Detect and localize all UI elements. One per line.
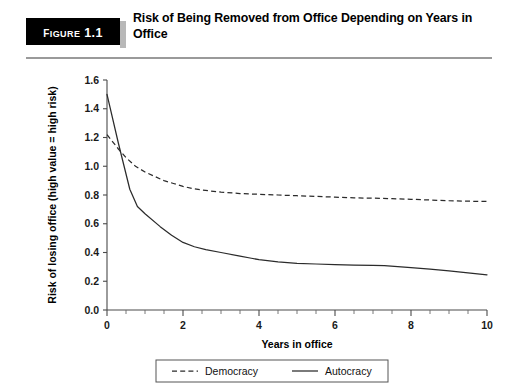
figure-header: Figure 1.1 Risk of Being Removed from Of… — [0, 0, 513, 62]
y-tick-label: 0.2 — [84, 275, 99, 287]
y-tick-label: 0.4 — [84, 246, 99, 258]
y-tick-label: 0.0 — [84, 304, 99, 316]
x-tick-label: 10 — [481, 319, 493, 331]
header-divider — [26, 57, 492, 59]
chart-legend: DemocracyAutocracy — [156, 360, 388, 382]
x-tick-label: 2 — [180, 319, 186, 331]
x-tick-label: 8 — [408, 319, 414, 331]
legend-label-autocracy: Autocracy — [325, 365, 372, 377]
y-axis-ticks: 0.00.20.40.60.81.01.21.41.6 — [84, 74, 107, 316]
y-tick-label: 1.0 — [84, 160, 99, 172]
x-tick-label: 4 — [256, 319, 262, 331]
figure-badge-shadow — [120, 21, 126, 48]
axes-group — [107, 80, 487, 310]
figure-title: Risk of Being Removed from Office Depend… — [133, 10, 485, 42]
line-chart: 0.00.20.40.60.81.01.21.41.6 0246810 Year… — [0, 62, 513, 388]
y-tick-label: 0.6 — [84, 217, 99, 229]
y-tick-label: 1.6 — [84, 74, 99, 86]
figure-number-label: Figure 1.1 — [43, 24, 102, 40]
figure-number-badge: Figure 1.1 — [26, 18, 120, 45]
x-axis-ticks: 0246810 — [104, 310, 493, 331]
series-line-democracy — [107, 135, 487, 202]
y-tick-label: 1.2 — [84, 131, 99, 143]
y-tick-label: 1.4 — [84, 102, 99, 114]
y-axis-title: Risk of losing office (high value = high… — [46, 86, 58, 303]
x-tick-label: 6 — [332, 319, 338, 331]
x-axis-title: Years in office — [261, 338, 332, 350]
y-tick-label: 0.8 — [84, 189, 99, 201]
legend-label-democracy: Democracy — [205, 365, 259, 377]
chart-container: 0.00.20.40.60.81.01.21.41.6 0246810 Year… — [0, 62, 513, 388]
series-line-autocracy — [107, 94, 487, 274]
x-tick-label: 0 — [104, 319, 110, 331]
data-series-group — [107, 94, 487, 274]
